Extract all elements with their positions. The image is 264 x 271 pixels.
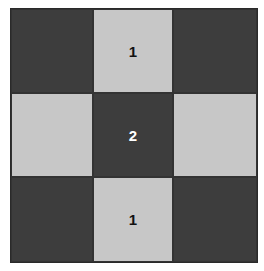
cell-r1-c1[interactable]: 2 [93,93,173,177]
cell-r1-c2[interactable] [173,93,257,177]
cell-r1-c0[interactable] [11,93,93,177]
cell-r2-c2[interactable] [173,177,257,262]
cell-r2-c1[interactable]: 1 [93,177,173,262]
cell-r2-c0[interactable] [11,177,93,262]
game-board: 1 2 1 [11,9,257,262]
cell-r0-c1[interactable]: 1 [93,9,173,93]
cell-r0-c2[interactable] [173,9,257,93]
cell-r0-c0[interactable] [11,9,93,93]
